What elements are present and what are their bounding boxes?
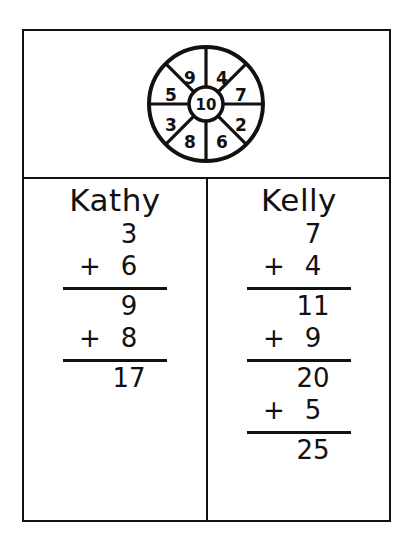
wheel-segment-3: 7 bbox=[235, 85, 247, 105]
sum-number: 17 bbox=[109, 365, 149, 391]
wheel-segment-7: 3 bbox=[165, 115, 177, 135]
sum-row: 25 bbox=[247, 437, 351, 469]
column-kathy: Kathy 3+69+817 bbox=[24, 178, 206, 522]
sum-row: +4 bbox=[247, 253, 351, 285]
column-title-kathy: Kathy bbox=[69, 184, 160, 217]
column-kelly: Kelly 7+411+920+525 bbox=[209, 178, 389, 522]
sum-row: 3 bbox=[63, 221, 167, 253]
wheel-segment-5: 6 bbox=[216, 132, 228, 152]
sum-row: +9 bbox=[247, 325, 351, 357]
wheel-center-value: 10 bbox=[195, 96, 216, 114]
sum-row: 17 bbox=[63, 365, 167, 397]
sum-stack-kathy: 3+69+817 bbox=[63, 221, 167, 397]
sum-operator: + bbox=[79, 325, 109, 351]
sum-rule bbox=[63, 359, 167, 362]
sum-operator: + bbox=[263, 325, 293, 351]
sum-operator: + bbox=[263, 397, 293, 423]
sum-rule bbox=[247, 359, 351, 362]
sum-row: 9 bbox=[63, 293, 167, 325]
column-title-kelly: Kelly bbox=[261, 184, 337, 217]
sum-rule bbox=[247, 431, 351, 434]
sum-stack-kelly: 7+411+920+525 bbox=[247, 221, 351, 469]
sum-number: 7 bbox=[293, 221, 333, 247]
sum-row: 7 bbox=[247, 221, 351, 253]
wheel-segment-8: 5 bbox=[165, 85, 177, 105]
spinner-wheel-icon[interactable]: 9 4 7 2 6 8 3 5 10 bbox=[146, 44, 266, 164]
wheel-segment-4: 2 bbox=[235, 115, 247, 135]
sum-number: 3 bbox=[109, 221, 149, 247]
sum-number: 8 bbox=[109, 325, 149, 351]
sum-row: +6 bbox=[63, 253, 167, 285]
sum-number: 6 bbox=[109, 253, 149, 279]
sum-number: 5 bbox=[293, 397, 333, 423]
wheel-segment-2: 4 bbox=[216, 68, 228, 88]
spinner-area: 9 4 7 2 6 8 3 5 10 bbox=[22, 31, 389, 177]
sum-row: 20 bbox=[247, 365, 351, 397]
sum-number: 4 bbox=[293, 253, 333, 279]
sum-number: 20 bbox=[293, 365, 333, 391]
sum-operator: + bbox=[263, 253, 293, 279]
sum-number: 9 bbox=[293, 325, 333, 351]
section-divider-vertical bbox=[206, 177, 208, 522]
wheel-segment-1: 9 bbox=[184, 68, 196, 88]
sum-number: 9 bbox=[109, 293, 149, 319]
worksheet-page: 9 4 7 2 6 8 3 5 10 Kathy 3+69+817 Kelly … bbox=[0, 0, 414, 547]
sum-rule bbox=[63, 287, 167, 290]
wheel-segment-6: 8 bbox=[184, 132, 196, 152]
sum-operator: + bbox=[79, 253, 109, 279]
sum-number: 25 bbox=[293, 437, 333, 463]
sum-rule bbox=[247, 287, 351, 290]
sum-number: 11 bbox=[293, 293, 333, 319]
sum-row: 11 bbox=[247, 293, 351, 325]
sum-row: +8 bbox=[63, 325, 167, 357]
sum-row: +5 bbox=[247, 397, 351, 429]
